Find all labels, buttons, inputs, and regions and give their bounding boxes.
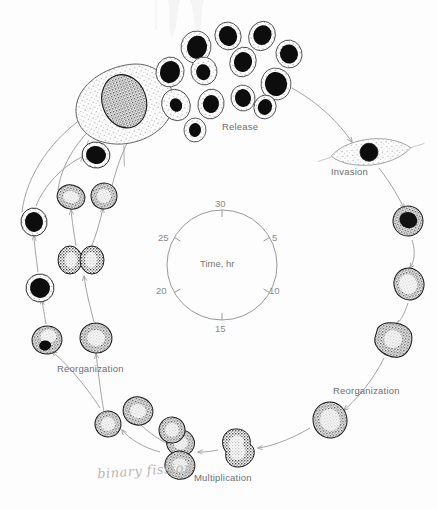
trophozoite-left-2: [29, 323, 64, 357]
daughter-cell-2: [119, 393, 156, 429]
infected-host-cell-invasion: [316, 133, 426, 170]
trophozoite-left-1: [78, 321, 114, 355]
trophozoite-right-1: [389, 202, 427, 240]
daughter-cell-3: [92, 408, 124, 440]
time-dial-center-label: Time, hr: [200, 258, 234, 269]
label-invasion: Invasion: [331, 166, 368, 177]
tick-label-15: 15: [215, 323, 226, 334]
tick-label-10: 10: [269, 285, 280, 296]
tick-label-30: 30: [215, 198, 226, 209]
trophozoite-right-2: [390, 265, 427, 304]
schizont-bottom: [310, 399, 350, 440]
trophozoite-left-3: [24, 272, 56, 304]
label-multiplication: Multiplication: [194, 472, 252, 483]
trophozoite-left-5: [54, 182, 87, 212]
dividing-cell-1: [223, 429, 255, 467]
trophozoite-left-7: [80, 139, 113, 170]
schizont-right: [372, 320, 414, 360]
figure-canvas: [0, 0, 437, 509]
tick-label-5: 5: [272, 232, 277, 243]
trophozoite-left-6: [88, 180, 121, 213]
dividing-cell-left: [58, 246, 104, 274]
label-release: Release: [222, 121, 258, 132]
life-cycle-figure: Release Invasion Reorganization Reorgani…: [0, 0, 437, 509]
label-reorganization-left: Reorganization: [57, 363, 124, 374]
trophozoite-left-4: [19, 206, 49, 238]
tick-label-25: 25: [158, 232, 169, 243]
tick-label-20: 20: [156, 285, 167, 296]
label-reorganization-right: Reorganization: [333, 385, 400, 396]
